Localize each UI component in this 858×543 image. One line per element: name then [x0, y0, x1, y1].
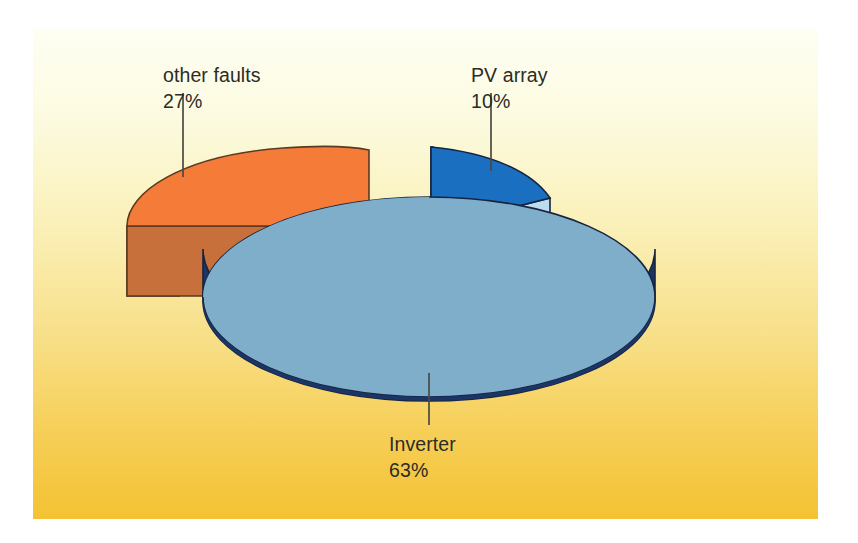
pie-slice-inverter[interactable] — [203, 197, 655, 401]
pie-chart-panel: other faults 27% PV array 10% Inverter 6… — [33, 29, 818, 519]
inverter-label-name: Inverter — [389, 433, 456, 455]
other-faults-label-value: 27% — [163, 90, 202, 112]
pv-array-label-value: 10% — [471, 90, 510, 112]
pie-chart-svg: other faults 27% PV array 10% Inverter 6… — [33, 29, 818, 519]
pv-array-label-name: PV array — [471, 64, 548, 86]
inverter-label-value: 63% — [389, 459, 428, 481]
screenshot-root: other faults 27% PV array 10% Inverter 6… — [0, 0, 858, 543]
other-faults-label-name: other faults — [163, 64, 261, 86]
